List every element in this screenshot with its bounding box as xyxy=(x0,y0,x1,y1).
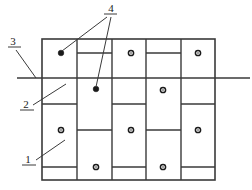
figure-root: 4321 xyxy=(0,0,252,190)
callout-4-text: 4 xyxy=(108,2,114,14)
tie-point-c3-lower-center xyxy=(130,129,132,131)
tie-point-c5-upper-center xyxy=(197,52,199,54)
panel-outer-border xyxy=(42,39,215,180)
leader-4-a xyxy=(62,17,107,51)
callout-2-text: 2 xyxy=(23,98,29,110)
anchor-point-c2-mid xyxy=(93,86,99,92)
tie-point-c4-mid-center xyxy=(162,89,164,91)
callout-1-text: 1 xyxy=(25,153,31,165)
callout-3-text: 3 xyxy=(10,35,16,47)
technical-diagram: 4321 xyxy=(0,0,252,190)
tie-point-c3-upper-center xyxy=(130,52,132,54)
tie-point-c4-bottom-center xyxy=(162,166,164,168)
panel-grid xyxy=(42,39,215,180)
tie-marker-group xyxy=(58,50,200,169)
tie-point-c5-lower-center xyxy=(197,129,199,131)
tie-point-c2-bottom-center xyxy=(95,166,97,168)
tie-point-c1-lower-center xyxy=(60,129,62,131)
anchor-point-c1-upper xyxy=(58,50,64,56)
callout-group: 4321 xyxy=(8,2,117,165)
leader-4-b xyxy=(96,17,111,87)
leader-3 xyxy=(16,50,36,78)
bond-joint-lines xyxy=(42,53,215,167)
leader-2 xyxy=(33,84,66,105)
leader-1 xyxy=(36,140,65,160)
